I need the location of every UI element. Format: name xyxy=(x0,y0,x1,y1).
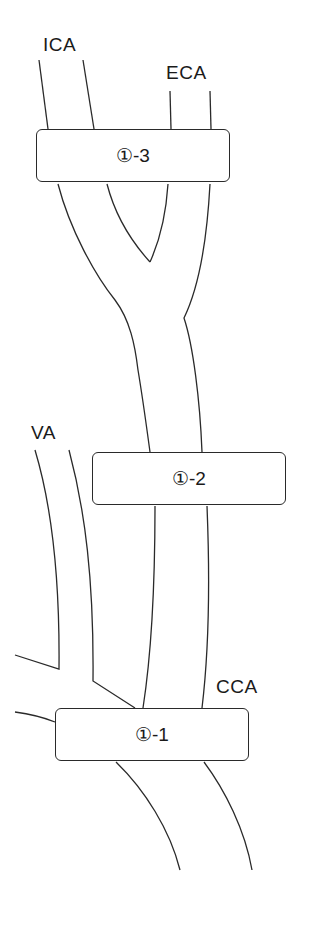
cca-left-wall xyxy=(143,506,155,708)
bifurcation-inner-eca xyxy=(150,184,168,262)
measurement-box-1-1: ①-1 xyxy=(55,708,249,761)
box-label: ①-1 xyxy=(135,723,169,746)
cca-label: CCA xyxy=(216,676,258,698)
box-label: ①-2 xyxy=(172,467,206,490)
bifurcation-inner-ica xyxy=(107,184,150,262)
lower-cca-right-wall xyxy=(204,762,252,870)
va-label: VA xyxy=(31,422,56,444)
box-label: ①-3 xyxy=(116,144,150,167)
eca-outer-wall xyxy=(184,184,210,452)
eca-right-wall xyxy=(210,91,211,129)
cca-right-wall xyxy=(202,506,209,708)
va-left-wall xyxy=(15,450,59,669)
measurement-box-1-2: ①-2 xyxy=(92,452,286,505)
measurement-box-1-3: ①-3 xyxy=(36,129,230,182)
ica-right-wall xyxy=(83,60,94,129)
eca-label: ECA xyxy=(166,62,207,84)
ica-outer-wall xyxy=(58,184,150,452)
ica-label: ICA xyxy=(43,34,76,56)
eca-left-wall xyxy=(170,91,171,129)
lower-cca-left-wall xyxy=(116,762,180,870)
subclavian-wall xyxy=(15,712,55,722)
ica-left-wall xyxy=(39,60,48,129)
